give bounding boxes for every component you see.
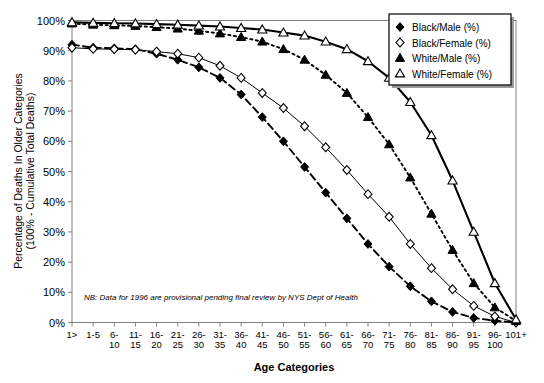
x-tick-label-second-line: 30 <box>194 339 205 350</box>
y-tick-label: 10% <box>43 286 65 298</box>
x-axis-ticks: 1>1-56-1011-1516-2021-2526-3031-3536-404… <box>67 323 528 350</box>
y-tick-label: 50% <box>43 166 65 178</box>
x-axis-title: Age Categories <box>254 361 335 373</box>
data-point-marker-open-diamond <box>470 301 478 310</box>
x-tick-label: 1> <box>67 329 78 340</box>
x-tick-label: 1-5 <box>86 329 100 340</box>
x-tick-label-second-line: 25 <box>172 339 183 350</box>
series-line <box>72 48 516 323</box>
y-axis-title-line-1: Percentage of Deaths In Older Categories <box>12 73 24 269</box>
data-point-marker-open-diamond <box>110 45 118 54</box>
data-point-marker-open-diamond <box>131 45 139 54</box>
data-point-marker-filled-diamond <box>470 314 478 323</box>
y-tick-label: 20% <box>43 256 65 268</box>
x-tick-label-second-line: 75 <box>384 339 395 350</box>
chart-container: 0%10%20%30%40%50%60%70%80%90%100% 1>1-56… <box>0 0 544 383</box>
x-tick-label-second-line: 10 <box>109 339 120 350</box>
x-tick-label-second-line: 80 <box>405 339 416 350</box>
x-tick-label-second-line: 35 <box>215 339 226 350</box>
data-point-marker-open-diamond <box>174 49 182 58</box>
x-tick-label-second-line: 45 <box>257 339 268 350</box>
data-point-marker-open-diamond <box>237 73 245 82</box>
data-point-marker-filled-triangle <box>258 37 267 45</box>
legend-item-label: Black/Male (%) <box>412 22 479 33</box>
chart-annotation: NB: Data for 1996 are provisional pendin… <box>84 293 358 302</box>
x-tick-label-second-line: 60 <box>320 339 331 350</box>
data-point-marker-filled-diamond <box>449 308 457 317</box>
x-tick-label-second-line: 95 <box>468 339 479 350</box>
data-point-marker-open-diamond <box>258 89 266 98</box>
data-point-marker-filled-triangle <box>279 45 288 53</box>
y-tick-label: 40% <box>43 196 65 208</box>
x-tick-label: 101+ <box>505 329 527 340</box>
y-tick-label: 100% <box>37 15 65 27</box>
data-point-marker-filled-triangle <box>300 55 309 63</box>
x-tick-label-second-line: 100 <box>487 339 503 350</box>
data-point-marker-open-triangle <box>469 227 478 235</box>
data-point-marker-open-triangle <box>448 176 457 184</box>
x-tick-label-second-line: 85 <box>426 339 437 350</box>
y-axis-ticks: 0%10%20%30%40%50%60%70%80%90%100% <box>37 15 72 329</box>
data-point-marker-filled-triangle <box>427 209 436 217</box>
y-tick-label: 80% <box>43 75 65 87</box>
x-tick-label-second-line: 40 <box>236 339 247 350</box>
y-tick-label: 90% <box>43 45 65 57</box>
data-point-marker-filled-triangle <box>237 33 246 41</box>
y-tick-label: 30% <box>43 226 65 238</box>
x-tick-label-second-line: 15 <box>130 339 141 350</box>
data-point-marker-open-diamond <box>195 53 203 62</box>
chart-legend[interactable]: Black/Male (%)Black/Female (%)White/Male… <box>389 14 514 88</box>
data-point-marker-open-triangle <box>490 279 499 287</box>
x-tick-label-second-line: 55 <box>299 339 310 350</box>
x-tick-label-second-line: 20 <box>151 339 162 350</box>
legend-item-label: Black/Female (%) <box>412 38 491 49</box>
data-point-marker-filled-diamond <box>195 63 203 72</box>
y-axis-title-line-2: (100% - Cumulative Total Deaths) <box>24 93 36 250</box>
data-point-marker-open-triangle <box>363 57 372 65</box>
y-tick-label: 0% <box>49 317 65 329</box>
x-tick-label-second-line: 70 <box>363 339 374 350</box>
x-tick-label-second-line: 90 <box>447 339 458 350</box>
cumulative-deaths-line-chart: 0%10%20%30%40%50%60%70%80%90%100% 1>1-56… <box>0 0 544 383</box>
x-tick-label-second-line: 65 <box>342 339 353 350</box>
data-point-marker-filled-triangle <box>448 245 457 253</box>
y-tick-label: 70% <box>43 105 65 117</box>
provisional-data-note: NB: Data for 1996 are provisional pendin… <box>84 293 358 302</box>
x-tick-label-second-line: 50 <box>278 339 289 350</box>
legend-item-label: White/Female (%) <box>412 69 492 80</box>
data-point-marker-open-diamond <box>279 104 287 113</box>
data-point-marker-open-diamond <box>216 61 224 70</box>
legend-item-label: White/Male (%) <box>412 53 480 64</box>
y-tick-label: 60% <box>43 135 65 147</box>
